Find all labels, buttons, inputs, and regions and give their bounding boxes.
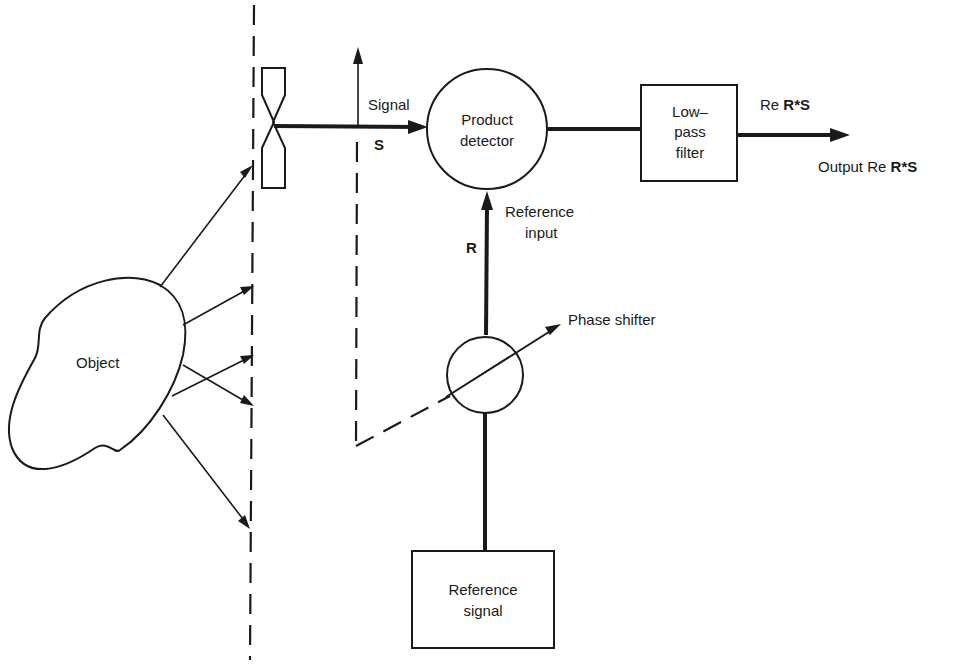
phase-shifter-label: Phase shifter [568,311,656,328]
signal-label: Signal [368,96,410,113]
reference-signal-block: Reference signal [412,551,554,648]
filter-line3: filter [676,144,704,161]
filter-line1: Low– [672,103,709,120]
object-label: Object [76,354,120,371]
output-label: Output Re R*S [818,158,917,175]
lock-in-diagram: Object Signal S Product detector [0,0,955,665]
low-pass-filter: Low– pass filter [641,85,737,181]
reference-input-path: R Reference input [466,191,574,335]
reference-input-line2: input [525,224,558,241]
signal-path: Signal S [274,96,428,153]
object-blob: Object [9,278,186,469]
reference-input-line1: Reference [505,203,574,220]
output-path: Re R*S Output Re R*S [737,96,917,175]
filter-line2: pass [674,123,706,140]
signal-symbol: S [374,136,384,153]
reference-signal-line1: Reference [448,581,517,598]
reference-signal-line2: signal [463,602,502,619]
product-detector-line1: Product [461,111,514,128]
phase-shifter: Phase shifter [446,311,656,413]
detector-plane [250,5,254,660]
product-detector: Product detector [427,69,547,189]
product-detector-line2: detector [460,132,514,149]
filter-output-label: Re R*S [760,96,810,113]
reference-symbol: R [466,239,477,256]
